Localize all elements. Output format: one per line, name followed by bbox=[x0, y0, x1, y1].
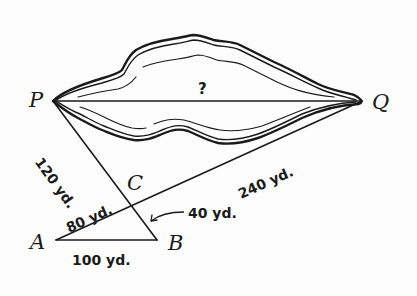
point-label-a: A bbox=[30, 232, 45, 253]
point-label-c: C bbox=[127, 173, 143, 194]
lake-outline bbox=[53, 35, 361, 144]
diagram-canvas: P Q C A B ? 120 yd. 80 yd. 240 yd. 40 yd… bbox=[0, 0, 417, 296]
label-cb-40yd: 40 yd. bbox=[188, 206, 237, 220]
point-label-b: B bbox=[168, 233, 183, 254]
pointer-arrow-40yd bbox=[151, 212, 184, 221]
lake-top-outer bbox=[53, 35, 361, 104]
label-ab-100yd: 100 yd. bbox=[72, 253, 131, 267]
lake-bottom-middle bbox=[56, 101, 356, 140]
diagram-figure bbox=[0, 0, 417, 296]
lake-bottom-outer bbox=[53, 101, 358, 144]
point-label-q: Q bbox=[372, 92, 389, 113]
point-label-p: P bbox=[29, 90, 43, 111]
unknown-distance-label: ? bbox=[198, 82, 207, 97]
